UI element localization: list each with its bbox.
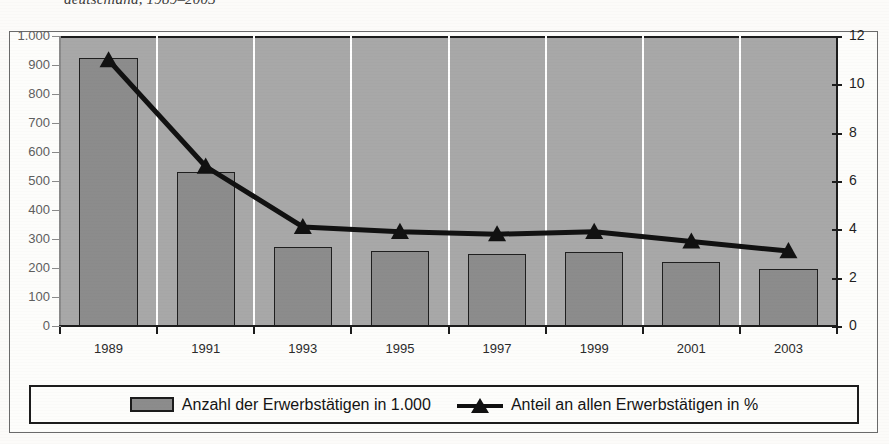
line-marker xyxy=(100,51,118,67)
left-axis-tick xyxy=(52,94,61,95)
left-axis-tick-label: 700 xyxy=(0,115,50,130)
left-axis-tick-label: 600 xyxy=(0,144,50,159)
left-axis-tick-label: 200 xyxy=(0,260,50,275)
left-axis-tick xyxy=(52,268,61,269)
legend-item-bar: Anzahl der Erwerbstätigen in 1.000 xyxy=(130,396,431,414)
right-axis-tick xyxy=(832,133,842,135)
chart-figure: deutschland, 1989–2003 01002003004005006… xyxy=(0,0,889,444)
line-path xyxy=(109,60,789,251)
x-axis-tick xyxy=(642,327,644,334)
x-axis-tick-label: 2003 xyxy=(774,341,803,356)
left-axis-tick xyxy=(52,65,61,66)
right-axis-tick xyxy=(832,181,842,183)
left-axis-tick-label: 100 xyxy=(0,289,50,304)
right-axis-tick-label: 4 xyxy=(849,220,857,236)
right-axis-tick-label: 10 xyxy=(849,75,865,91)
x-axis-tick xyxy=(739,327,741,334)
left-axis-tick-label: 1.000 xyxy=(0,28,50,43)
left-axis-tick xyxy=(52,123,61,124)
chart-title: deutschland, 1989–2003 xyxy=(64,0,216,8)
x-axis-tick xyxy=(59,327,61,334)
right-axis-tick-label: 0 xyxy=(849,317,857,333)
left-axis-tick-label: 800 xyxy=(0,86,50,101)
left-axis-tick xyxy=(52,297,61,298)
left-axis-tick-label: 300 xyxy=(0,231,50,246)
right-axis-tick-label: 2 xyxy=(849,269,857,285)
left-axis-tick-label: 500 xyxy=(0,173,50,188)
legend-item-bar-label: Anzahl der Erwerbstätigen in 1.000 xyxy=(182,396,431,414)
legend-item-line: Anteil an allen Erwerbstätigen in % xyxy=(457,396,758,414)
x-axis-tick xyxy=(545,327,547,334)
left-axis-tick xyxy=(52,210,61,211)
x-axis-tick-label: 1995 xyxy=(385,341,414,356)
right-axis-tick xyxy=(832,84,842,86)
left-axis-tick xyxy=(52,152,61,153)
gray-bar-swatch-icon xyxy=(130,397,174,412)
left-axis-tick-label: 400 xyxy=(0,202,50,217)
left-axis-tick-label: 0 xyxy=(0,318,50,333)
x-axis-tick xyxy=(156,327,158,334)
right-axis-tick-label: 12 xyxy=(849,27,865,43)
left-axis-tick xyxy=(52,239,61,240)
triangle-marker-line-icon xyxy=(457,397,503,413)
left-axis-tick-label: 900 xyxy=(0,57,50,72)
left-axis-tick xyxy=(52,36,61,37)
right-axis-tick xyxy=(832,229,842,231)
x-axis-tick xyxy=(836,327,838,334)
x-axis-tick-label: 1991 xyxy=(191,341,220,356)
right-axis-tick xyxy=(832,278,842,280)
x-axis-tick xyxy=(350,327,352,334)
right-axis-tick-label: 6 xyxy=(849,172,857,188)
right-axis-tick xyxy=(832,36,842,38)
x-axis-tick-label: 2001 xyxy=(677,341,706,356)
x-axis-tick xyxy=(253,327,255,334)
legend: Anzahl der Erwerbstätigen in 1.000 Antei… xyxy=(29,385,859,424)
x-axis-tick-label: 1997 xyxy=(483,341,512,356)
left-axis-tick xyxy=(52,181,61,182)
legend-item-line-label: Anteil an allen Erwerbstätigen in % xyxy=(511,396,758,414)
x-axis-tick-label: 1993 xyxy=(288,341,317,356)
x-axis-tick xyxy=(448,327,450,334)
right-axis-tick-label: 8 xyxy=(849,124,857,140)
x-axis-tick-label: 1989 xyxy=(94,341,123,356)
line-series xyxy=(60,36,837,326)
x-axis-tick-label: 1999 xyxy=(580,341,609,356)
